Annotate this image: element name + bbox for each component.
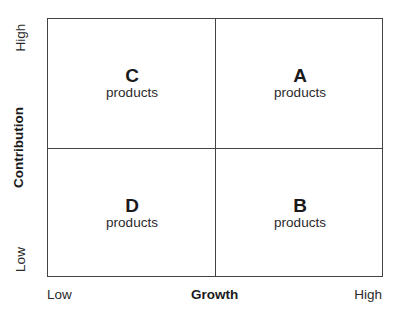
y-axis-title: Contribution <box>11 98 26 198</box>
quadrant-label: products <box>106 215 158 230</box>
matrix-grid: C products A products D products B produ… <box>47 18 383 277</box>
quadrant-letter: D <box>125 197 139 215</box>
quadrant-top-left: C products <box>48 19 216 148</box>
quadrant-bottom-right: B products <box>216 149 384 278</box>
quadrant-top-right: A products <box>216 19 384 148</box>
quadrant-letter: C <box>125 67 139 85</box>
x-axis-low-label: Low <box>47 287 72 302</box>
quadrant-bottom-left: D products <box>48 149 216 278</box>
quadrant-letter: B <box>293 197 307 215</box>
quadrant-letter: A <box>293 67 307 85</box>
quadrant-label: products <box>106 85 158 100</box>
quadrant-label: products <box>274 85 326 100</box>
x-axis-title: Growth <box>191 287 238 302</box>
x-axis-high-label: High <box>354 287 382 302</box>
quadrant-label: products <box>274 215 326 230</box>
y-axis-low-label: Low <box>13 245 28 275</box>
y-axis-high-label: High <box>13 21 28 55</box>
